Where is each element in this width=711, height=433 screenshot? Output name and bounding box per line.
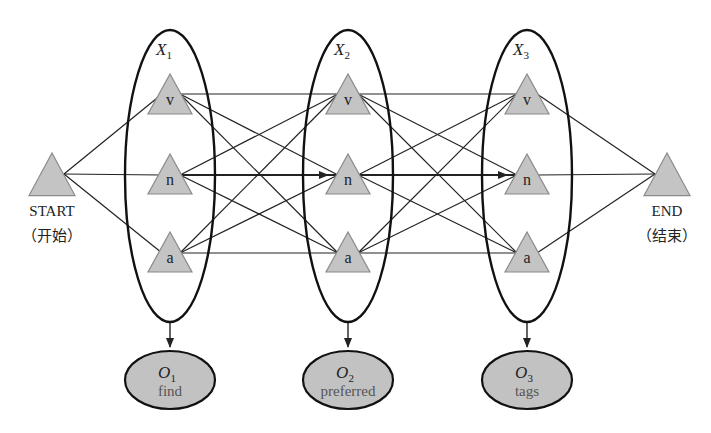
observation-node: O3tags	[482, 351, 572, 409]
hidden-variable-label: X1	[155, 40, 172, 61]
state-label: a	[344, 249, 351, 266]
state-label: v	[344, 91, 352, 108]
edge-n-end	[537, 174, 655, 175]
hidden-variable-label: X3	[512, 40, 529, 61]
start-label: START	[29, 203, 74, 219]
diagram-svg: X1X2X3 vvvnnnaaaSTART（开始）END（结束） O1findO…	[0, 0, 711, 433]
state-label: a	[523, 249, 530, 266]
observation-word: tags	[515, 383, 539, 399]
state-label: n	[166, 171, 174, 188]
start-sublabel: （开始）	[22, 228, 82, 244]
state-label: a	[166, 249, 173, 266]
edge-start-n	[64, 174, 162, 175]
end-label: END	[652, 203, 683, 219]
state-node-a-1: a	[148, 232, 192, 272]
observation-node: O1find	[125, 351, 215, 409]
hidden-variable-label: X2	[333, 40, 350, 61]
state-label: n	[344, 171, 352, 188]
end-sublabel: （结束）	[637, 228, 697, 244]
edge-start-v	[64, 94, 162, 174]
observation-word: find	[158, 383, 183, 399]
state-label: v	[166, 91, 174, 108]
edge-v-end	[537, 94, 655, 174]
state-label: n	[523, 171, 531, 188]
state-node-a-2: a	[326, 232, 370, 272]
state-label: v	[523, 91, 531, 108]
hmm-diagram: X1X2X3 vvvnnnaaaSTART（开始）END（结束） O1findO…	[0, 0, 711, 433]
observation-node: O2preferred	[303, 351, 393, 409]
observation-word: preferred	[321, 383, 376, 399]
state-node-a-3: a	[505, 232, 549, 272]
